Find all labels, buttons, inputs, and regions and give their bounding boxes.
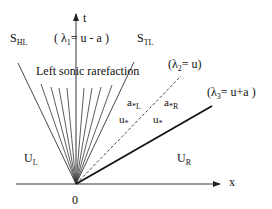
- region-right-label: UR: [177, 152, 191, 166]
- origin-label: 0: [72, 194, 78, 206]
- head-label: SHL: [10, 32, 27, 46]
- tail-label: STL: [137, 32, 153, 46]
- rarefaction-label: Left sonic rarefaction: [36, 65, 139, 77]
- lambda3-label: (λ3= u+a ): [207, 86, 256, 100]
- region-left-label: UL: [24, 152, 38, 166]
- star-right-a-label: a*R: [164, 96, 178, 110]
- star-left-a-label: a*L: [127, 96, 141, 110]
- right-shock: [76, 106, 212, 184]
- star-right-u-label: u*: [153, 113, 163, 127]
- contact-discontinuity: [76, 76, 181, 184]
- lambda1-label: ( λ1= u - a ): [54, 32, 109, 46]
- x-axis-label: x: [229, 176, 235, 188]
- star-left-u-label: u*: [119, 113, 129, 127]
- lambda2-label: (λ2= u): [168, 58, 202, 72]
- t-axis-label: t: [83, 12, 86, 24]
